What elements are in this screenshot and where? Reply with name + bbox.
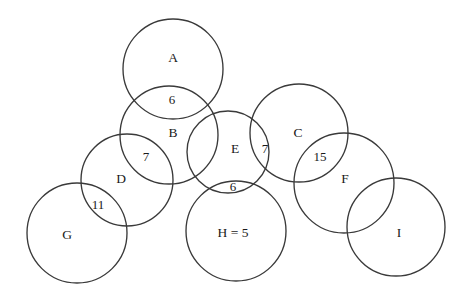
venn-label-d: D: [116, 171, 126, 186]
venn-label-i: I: [397, 225, 402, 240]
venn-diagram-svg: A B C D E F G H = 5 I 6 7 11 7 15 6: [0, 0, 465, 295]
venn-circle-g: [27, 183, 127, 283]
venn-intersection-value-e-h: 6: [230, 179, 237, 194]
venn-intersection-value-c-f: 15: [314, 149, 327, 164]
venn-label-f: F: [341, 171, 349, 186]
venn-diagram-canvas: A B C D E F G H = 5 I 6 7 11 7 15 6: [0, 0, 465, 295]
venn-label-b: B: [168, 125, 177, 140]
venn-intersection-value-d-g: 11: [92, 197, 105, 212]
venn-label-e: E: [231, 141, 239, 156]
venn-intersection-value-b-d: 7: [143, 149, 150, 164]
venn-intersection-value-a-b: 6: [169, 92, 176, 107]
venn-circle-d: [81, 134, 173, 226]
venn-label-g: G: [62, 227, 72, 242]
venn-label-a: A: [168, 50, 178, 65]
venn-label-c: C: [293, 125, 302, 140]
venn-intersection-value-e-c: 7: [262, 141, 269, 156]
venn-label-h: H = 5: [218, 225, 249, 240]
venn-circle-e: [187, 111, 269, 193]
